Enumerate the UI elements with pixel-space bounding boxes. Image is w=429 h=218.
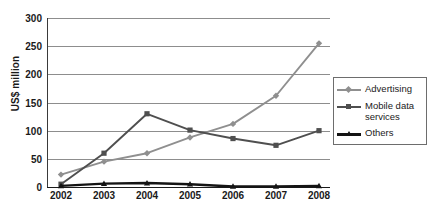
series-line (61, 114, 319, 184)
legend-marker-glyph (346, 104, 351, 109)
data-point-marker (58, 171, 64, 177)
series-line (61, 43, 319, 174)
y-axis-tick-label: 200 (14, 69, 42, 80)
y-axis-tick-label: 250 (14, 41, 42, 52)
data-point-marker (187, 128, 192, 133)
plot-area (47, 18, 330, 188)
data-point-marker (101, 151, 106, 156)
x-axis-tick-label: 2006 (213, 190, 253, 201)
data-point-marker (101, 158, 107, 164)
legend-diamond-marker-icon (337, 84, 361, 95)
x-axis-tick-label: 2002 (41, 190, 81, 201)
x-axis-tick-label: 2008 (299, 190, 339, 201)
x-axis-tick-label: 2003 (84, 190, 124, 201)
x-axis-tick-label: 2005 (170, 190, 210, 201)
data-point-marker (230, 136, 235, 141)
x-axis-tick-labels: 2002200320042005200620072008 (47, 190, 330, 208)
y-axis-tick-label: 50 (14, 153, 42, 164)
y-axis-tick-label: 150 (14, 97, 42, 108)
data-point-marker (273, 143, 278, 148)
legend-marker-glyph (345, 86, 352, 93)
y-axis-tick-labels: 050100150200250300 (8, 18, 42, 188)
chart-figure: US$ million 050100150200250300 200220032… (0, 0, 429, 218)
legend-item-label: Advertising (365, 83, 423, 94)
series-others (58, 180, 322, 189)
legend-triangle-marker-icon (337, 128, 361, 139)
y-axis-tick-label: 100 (14, 125, 42, 136)
y-axis-tick-label: 0 (14, 182, 42, 193)
data-point-marker (144, 111, 149, 116)
legend-square-marker-icon (337, 101, 361, 112)
y-axis-tick-label: 300 (14, 13, 42, 24)
legend-item[interactable]: Others (337, 127, 423, 139)
series-mobile-data-services (58, 111, 321, 187)
legend-item[interactable]: Mobile data services (337, 100, 423, 122)
legend-item[interactable]: Advertising (337, 83, 423, 95)
data-point-marker (144, 150, 150, 156)
legend-marker-glyph (346, 131, 352, 136)
data-point-marker (187, 134, 193, 140)
legend-item-label: Mobile data services (365, 100, 423, 122)
x-axis-tick-label: 2004 (127, 190, 167, 201)
chart-legend: AdvertisingMobile data servicesOthers (333, 77, 427, 145)
data-point-marker (316, 128, 321, 133)
series-layer (47, 18, 330, 188)
legend-item-label: Others (365, 127, 423, 138)
x-axis-tick-label: 2007 (256, 190, 296, 201)
